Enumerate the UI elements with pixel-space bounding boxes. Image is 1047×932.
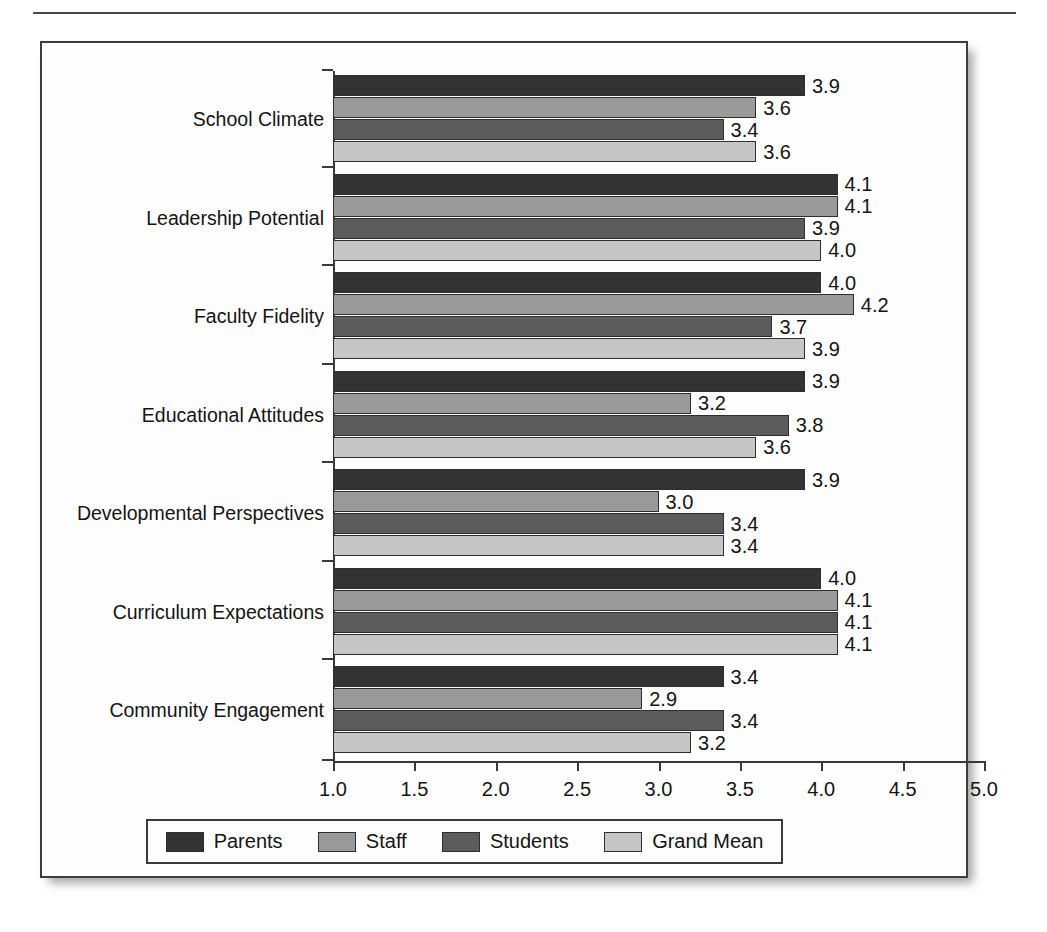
bar-value-label: 3.4	[731, 513, 759, 536]
bar-parents	[333, 371, 805, 392]
x-axis-tick	[984, 761, 986, 771]
x-axis-tick-label: 2.5	[563, 778, 591, 801]
bar-staff	[333, 196, 838, 217]
bar-value-label: 3.4	[731, 535, 759, 558]
bar-value-label: 3.4	[731, 666, 759, 689]
bar-students	[333, 513, 724, 534]
bar-grand-mean	[333, 535, 724, 556]
bar-parents	[333, 75, 805, 96]
bar-value-label: 3.9	[812, 217, 840, 240]
bar-value-label: 4.0	[828, 567, 856, 590]
y-axis-tick	[322, 658, 333, 660]
x-axis-tick-label: 2.0	[482, 778, 510, 801]
legend-swatch-icon	[604, 832, 642, 852]
category-label-column: School ClimateLeadership PotentialFacult…	[42, 43, 324, 880]
x-axis-tick-label: 5.0	[970, 778, 998, 801]
bar-value-label: 4.1	[845, 173, 873, 196]
bar-value-label: 3.6	[763, 436, 791, 459]
x-axis-tick-label: 3.0	[645, 778, 673, 801]
bar-value-label: 4.1	[845, 195, 873, 218]
bar-chart-plot-area: School ClimateLeadership PotentialFacult…	[42, 43, 970, 880]
legend-swatch-icon	[318, 832, 356, 852]
bar-staff	[333, 491, 659, 512]
bar-students	[333, 415, 789, 436]
bar-value-label: 3.9	[812, 370, 840, 393]
legend-swatch-icon	[166, 832, 204, 852]
legend-entry-students: Students	[442, 830, 569, 853]
legend-label: Students	[490, 830, 569, 853]
bar-grand-mean	[333, 634, 838, 655]
y-axis-tick	[322, 264, 333, 266]
bar-value-label: 3.0	[666, 491, 694, 514]
bar-parents	[333, 469, 805, 490]
bar-staff	[333, 97, 756, 118]
y-axis-tick	[322, 166, 333, 168]
bar-value-label: 3.2	[698, 732, 726, 755]
bar-value-label: 4.1	[845, 633, 873, 656]
legend-swatch-icon	[442, 832, 480, 852]
y-axis-tick	[322, 363, 333, 365]
bar-value-label: 3.7	[779, 316, 807, 339]
bar-value-label: 4.0	[828, 239, 856, 262]
bar-value-label: 4.0	[828, 272, 856, 295]
chart-legend: ParentsStaffStudentsGrand Mean	[146, 819, 783, 864]
bar-parents	[333, 272, 821, 293]
bar-staff	[333, 393, 691, 414]
legend-label: Staff	[366, 830, 407, 853]
bar-grand-mean	[333, 141, 756, 162]
x-axis-tick-label: 1.5	[400, 778, 428, 801]
x-axis-tick-label: 4.0	[807, 778, 835, 801]
bar-staff	[333, 294, 854, 315]
bar-value-label: 3.9	[812, 469, 840, 492]
bar-value-label: 3.4	[731, 710, 759, 733]
bar-value-label: 3.9	[812, 338, 840, 361]
x-axis-tick-label: 1.0	[319, 778, 347, 801]
legend-label: Grand Mean	[652, 830, 763, 853]
x-axis-tick	[577, 761, 579, 771]
page-top-rule	[33, 12, 1016, 14]
bar-value-label: 3.4	[731, 119, 759, 142]
bar-value-label: 4.2	[861, 294, 889, 317]
bar-value-label: 4.1	[845, 611, 873, 634]
bar-value-label: 3.8	[796, 414, 824, 437]
legend-entry-parents: Parents	[166, 830, 283, 853]
category-label: Leadership Potential	[146, 209, 324, 229]
x-axis-tick-label: 3.5	[726, 778, 754, 801]
bar-grand-mean	[333, 437, 756, 458]
bar-staff	[333, 688, 642, 709]
bar-parents	[333, 174, 838, 195]
x-axis-tick	[740, 761, 742, 771]
y-axis-tick	[322, 560, 333, 562]
category-label: School Climate	[193, 110, 324, 130]
bar-students	[333, 612, 838, 633]
category-label: Faculty Fidelity	[194, 307, 324, 327]
bar-grand-mean	[333, 240, 821, 261]
y-axis-tick	[322, 461, 333, 463]
bar-students	[333, 710, 724, 731]
x-axis-tick	[821, 761, 823, 771]
y-axis-tick	[322, 759, 333, 761]
x-axis-tick	[903, 761, 905, 771]
bar-students	[333, 218, 805, 239]
bar-value-label: 2.9	[649, 688, 677, 711]
legend-entry-staff: Staff	[318, 830, 407, 853]
bar-grand-mean	[333, 732, 691, 753]
bar-value-label: 3.2	[698, 392, 726, 415]
bar-parents	[333, 568, 821, 589]
bar-staff	[333, 590, 838, 611]
y-axis-tick	[322, 69, 333, 71]
x-axis-tick-label: 4.5	[889, 778, 917, 801]
legend-entry-grand-mean: Grand Mean	[604, 830, 763, 853]
bar-value-label: 3.6	[763, 97, 791, 120]
category-label: Educational Attitudes	[142, 406, 324, 426]
bar-students	[333, 119, 724, 140]
category-label: Curriculum Expectations	[113, 603, 324, 623]
bar-students	[333, 316, 772, 337]
bar-value-label: 3.9	[812, 75, 840, 98]
bar-value-label: 3.6	[763, 141, 791, 164]
bar-value-label: 4.1	[845, 589, 873, 612]
category-label: Community Engagement	[109, 701, 324, 721]
bar-parents	[333, 666, 724, 687]
x-axis-tick	[496, 761, 498, 771]
chart-figure-frame: School ClimateLeadership PotentialFacult…	[40, 41, 968, 878]
